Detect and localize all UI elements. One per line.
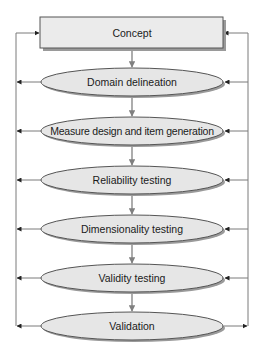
validation-label: Validation: [40, 319, 224, 333]
dimensionality-testing-label: Dimensionality testing: [40, 222, 224, 236]
left-feedback-loop: [16, 33, 41, 326]
right-feedback-loop: [224, 33, 248, 326]
measure-design-label: Measure design and item generation: [40, 124, 224, 138]
concept-label: Concept: [40, 26, 224, 40]
validity-testing-label: Validity testing: [40, 271, 224, 285]
reliability-testing-label: Reliability testing: [40, 173, 224, 187]
domain-delineation-label: Domain delineation: [40, 75, 224, 89]
